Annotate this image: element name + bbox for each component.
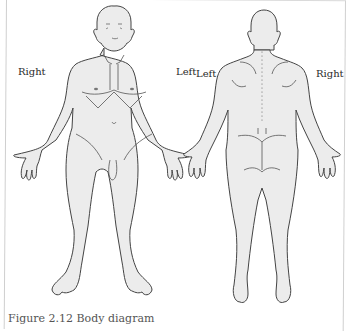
figure-caption: Figure 2.12 Body diagram [8,312,154,325]
back-head [248,10,281,50]
